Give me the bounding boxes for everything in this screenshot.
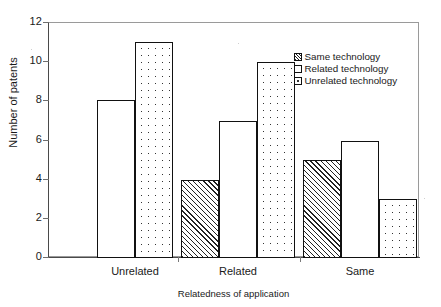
legend-label-unrelated-technology: Unrelated technology <box>305 76 398 86</box>
x-tick-label-unrelated: Unrelated <box>85 265 185 277</box>
y-tick-label-12: 12 <box>6 16 42 27</box>
y-tick-6 <box>43 140 49 141</box>
x-tick-2 <box>300 257 301 262</box>
y-tick-8 <box>43 100 49 101</box>
legend-swatch-dots-icon <box>294 77 302 85</box>
scan-speck <box>424 198 425 199</box>
y-tick-labels: 12 10 8 6 4 2 0 <box>0 0 42 307</box>
y-tick-0 <box>43 257 49 258</box>
x-tick-label-related: Related <box>188 265 288 277</box>
bar-same-unrelated-technology <box>379 199 417 258</box>
bar-unrelated-unrelated-technology <box>135 42 173 258</box>
legend-label-related-technology: Related technology <box>305 64 389 74</box>
y-axis-title: Number of patents <box>8 28 19 178</box>
x-tick-1 <box>178 257 179 262</box>
bar-related-same-technology <box>181 180 219 258</box>
bar-related-related-technology <box>219 121 257 258</box>
scan-speck <box>238 43 239 44</box>
legend-swatch-hatch-icon <box>294 53 302 61</box>
legend-swatch-white-icon <box>294 65 302 73</box>
y-tick-10 <box>43 61 49 62</box>
y-tick-4 <box>43 179 49 180</box>
bar-related-unrelated-technology <box>257 62 295 258</box>
y-tick-label-2: 2 <box>6 212 42 223</box>
bar-unrelated-related-technology <box>97 100 135 258</box>
y-tick-2 <box>43 218 49 219</box>
x-axis-title: Relatedness of application <box>48 288 419 299</box>
y-tick-label-0: 0 <box>6 251 42 262</box>
bar-same-same-technology <box>303 160 341 258</box>
legend-item-unrelated-technology: Unrelated technology <box>294 75 418 87</box>
legend-label-same-technology: Same technology <box>305 52 381 62</box>
x-tick-label-same: Same <box>310 265 410 277</box>
scan-speck <box>31 49 32 50</box>
bar-same-related-technology <box>341 141 379 259</box>
legend-item-related-technology: Related technology <box>294 63 418 75</box>
y-tick-12 <box>43 22 49 23</box>
bar-chart: 12 10 8 6 4 2 0 Number of patents Unrela… <box>0 0 441 307</box>
legend-item-same-technology: Same technology <box>294 51 418 63</box>
legend: Same technology Related technology Unrel… <box>294 51 418 88</box>
